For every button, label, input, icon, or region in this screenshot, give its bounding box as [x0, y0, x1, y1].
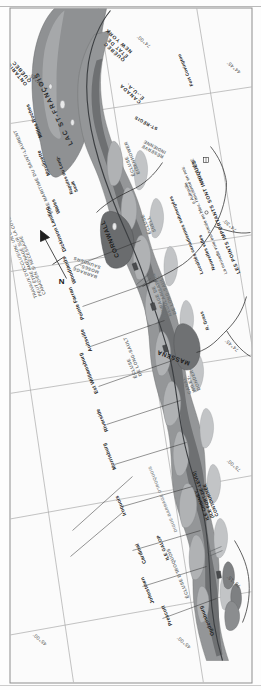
scan-bottom-rule: [0, 685, 261, 686]
north-arrow-label: N: [58, 276, 64, 284]
map-frame: N 45°00' 45°00' 44°45' 44°45' 75°15' 75°…: [9, 7, 252, 683]
map-page: N 45°00' 45°00' 44°45' 44°45' 75°15' 75°…: [0, 0, 261, 690]
ogdensburg-urban-area: [224, 601, 239, 630]
rotated-map-canvas: N 45°00' 45°00' 44°45' 44°45' 75°15' 75°…: [9, 7, 252, 683]
